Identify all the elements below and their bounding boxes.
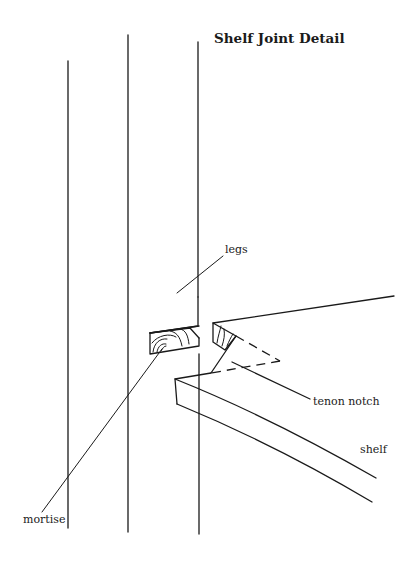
notch-hidden-bottom [211,361,280,373]
label-mortise: mortise [23,513,65,526]
legs-leader-line [177,256,223,293]
tenon-block [211,296,394,373]
shelf-top-back-edge [213,296,394,323]
label-tenon-notch: tenon notch [313,395,380,408]
label-legs: legs [225,243,248,256]
diagram-title: Shelf Joint Detail [214,30,345,46]
shelf-board [175,362,376,502]
legs-group [68,35,199,534]
mortise-block [150,297,199,354]
mortise-leader-line [42,349,162,512]
shelf-joint-diagram: Shelf Joint Detail [0,0,418,563]
shelf-inner-edge [232,362,310,399]
label-shelf: shelf [360,443,388,456]
notch-hidden-edge [236,336,280,361]
